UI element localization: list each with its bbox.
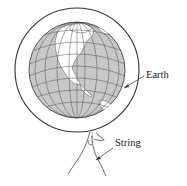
globe-diagram	[0, 0, 187, 186]
label-string: String	[115, 137, 141, 148]
label-earth: Earth	[146, 69, 169, 80]
hand	[68, 132, 106, 176]
arrowhead-icon	[124, 84, 129, 88]
